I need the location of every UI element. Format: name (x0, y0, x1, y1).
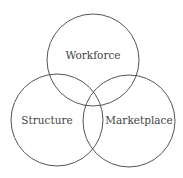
venn-diagram: Workforce Structure Marketplace (0, 0, 183, 178)
label-marketplace: Marketplace (105, 114, 172, 126)
label-workforce: Workforce (65, 49, 120, 61)
label-structure: Structure (21, 114, 72, 126)
